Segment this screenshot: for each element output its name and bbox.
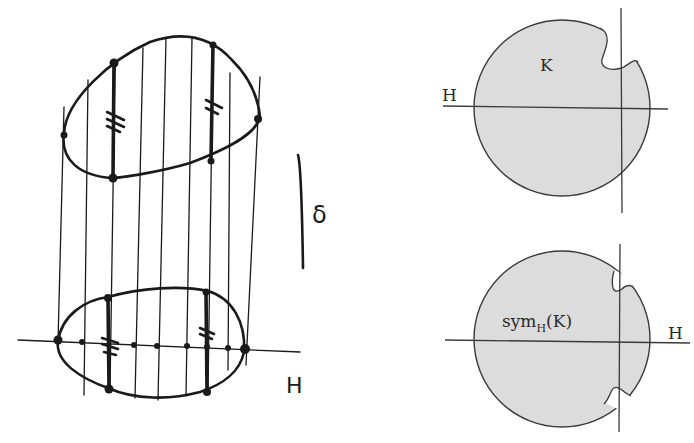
left-sketch: H δ: [18, 36, 327, 400]
axis-h-label: H: [286, 373, 303, 398]
set-k-label: K: [540, 55, 553, 75]
lower-chord-left: [108, 298, 109, 388]
equal-marks-lower: [102, 328, 214, 355]
direction-line: [298, 155, 303, 268]
axis-h-label: H: [442, 85, 457, 105]
axis-h-label: H: [668, 323, 683, 343]
bottom-right-panel: H symH(K): [445, 244, 690, 432]
upper-points: [61, 42, 263, 183]
figure-canvas: H δ H: [0, 0, 694, 443]
upper-chord-left: [113, 62, 114, 178]
upper-body-outline: [63, 36, 260, 178]
delta-label: δ: [312, 201, 327, 229]
lower-chord-right: [206, 291, 207, 392]
top-right-panel: H K: [442, 8, 668, 213]
